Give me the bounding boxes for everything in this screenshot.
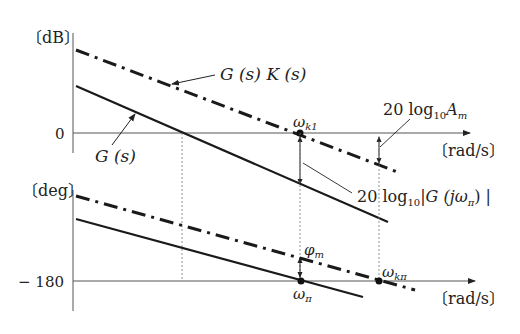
phase-margin-label: φm bbox=[304, 241, 324, 260]
gk-phase-line bbox=[76, 196, 415, 290]
omega-k1-label: ωk1 bbox=[293, 113, 318, 132]
phase-ref-label: − 180 bbox=[18, 273, 64, 291]
omega-kpi-label: ωkπ bbox=[382, 263, 407, 282]
gain-y-unit: 〔dB〕 bbox=[26, 28, 80, 47]
gain-margin-label: 20 log10Am bbox=[383, 100, 467, 121]
gain-x-unit: 〔rad/s〕 bbox=[432, 141, 505, 160]
g-label-leader bbox=[112, 114, 135, 145]
gain-value-label: 20 log10|G (jωπ) | bbox=[357, 187, 491, 208]
gk-label-leader bbox=[172, 75, 215, 84]
omega-pi-label: ωπ bbox=[293, 285, 312, 304]
gain-plot: 〔dB〕 0 〔rad/s〕 G (s) K (s) G (s) ωk1 20 … bbox=[26, 28, 505, 222]
phase-x-unit: 〔rad/s〕 bbox=[432, 289, 505, 308]
gain-zero-label: 0 bbox=[55, 125, 65, 143]
omega-pi-point bbox=[298, 278, 305, 285]
bode-diagram: 〔dB〕 0 〔rad/s〕 G (s) K (s) G (s) ωk1 20 … bbox=[0, 0, 520, 334]
phase-y-unit: 〔deg〕 bbox=[22, 181, 84, 200]
gk-curve-label: G (s) K (s) bbox=[220, 64, 306, 84]
g-curve-label: G (s) bbox=[95, 146, 136, 166]
